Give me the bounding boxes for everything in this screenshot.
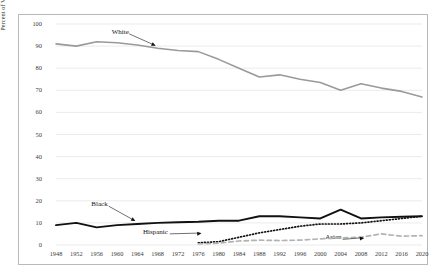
series-line-black: [56, 210, 422, 228]
annotation-arrow-hispanic: [197, 232, 201, 236]
annotation-leader-black: [109, 206, 134, 220]
annotation-leader-white: [129, 34, 155, 45]
series-line-white: [56, 42, 422, 97]
votes-by-race-line-chart: Percent of Votes Cast by Race 0102030405…: [0, 0, 447, 280]
plot-canvas: [0, 0, 447, 280]
annotation-leader-hispanic: [170, 233, 201, 234]
